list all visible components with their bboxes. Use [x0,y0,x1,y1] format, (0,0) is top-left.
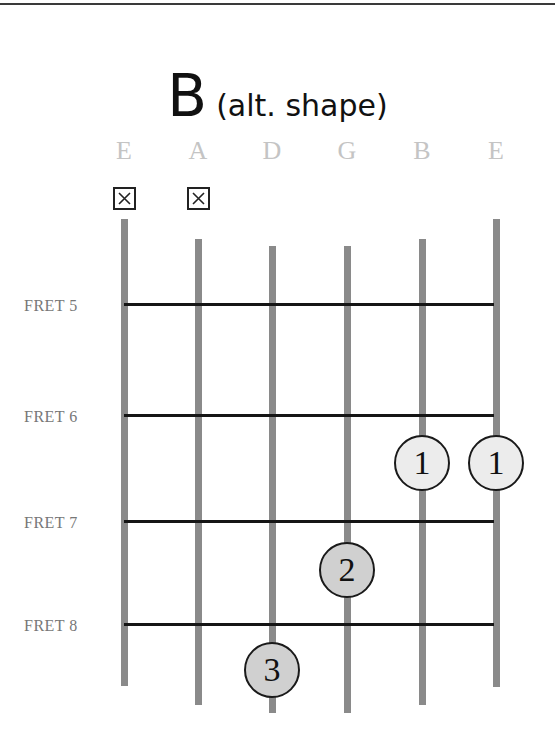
fret-line-8 [124,623,494,626]
fret-label-6: FRET 6 [24,408,78,426]
fret-line-7 [124,520,494,523]
mute-x-icon [187,187,210,210]
mute-x-icon [113,187,136,210]
string-name-b: B [402,136,442,166]
chord-title: B(alt. shape) [0,62,555,130]
finger-marker-2-g-string: 2 [319,542,375,598]
chord-subtitle: (alt. shape) [216,88,388,123]
fret-label-5: FRET 5 [24,297,78,315]
fret-label-7: FRET 7 [24,514,78,532]
string-name-high-e: E [476,136,516,166]
fret-label-8: FRET 8 [24,617,78,635]
fret-line-6 [124,414,494,417]
string-name-low-e: E [104,136,144,166]
finger-marker-3-d-string: 3 [244,642,300,698]
string-name-g: G [327,136,367,166]
string-g [344,246,351,713]
top-border-line [0,3,555,5]
string-name-d: D [252,136,292,166]
finger-marker-1-b-string: 1 [394,435,450,491]
string-a [195,239,202,705]
chord-name: B [167,62,206,130]
fret-line-5 [124,303,494,306]
finger-marker-1-high-e-string: 1 [468,435,524,491]
string-low-e [121,219,128,686]
string-name-a: A [178,136,218,166]
